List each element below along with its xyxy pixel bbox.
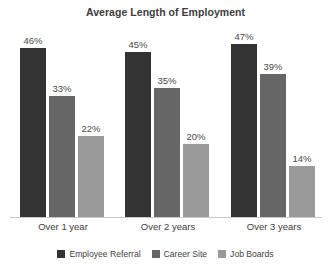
legend-swatch-icon (57, 250, 65, 258)
legend-item[interactable]: Employee Referral (57, 249, 140, 259)
bar-rect (78, 136, 104, 217)
bar-group-over-3-years: 47%39%14% (231, 26, 317, 217)
bar-value-label: 39% (252, 61, 294, 72)
bar-value-label: 46% (12, 35, 54, 46)
bar-value-label: 35% (146, 75, 188, 86)
bar-value-label: 14% (281, 153, 323, 164)
bar-rect (49, 96, 75, 217)
bar-value-label: 45% (117, 39, 159, 50)
legend-label: Career Site (164, 249, 207, 259)
bar-chart: Average Length of Employment 46%33%22% 4… (0, 0, 331, 276)
bar-rect (289, 166, 315, 217)
legend-item[interactable]: Job Boards (218, 249, 273, 259)
legend-label: Job Boards (230, 249, 273, 259)
bar-value-label: 20% (175, 131, 217, 142)
bar-rect (20, 48, 46, 217)
bar-group-over-2-years: 45%35%20% (125, 26, 211, 217)
bar-group-over-1-year: 46%33%22% (20, 26, 106, 217)
bar-rect (183, 144, 209, 218)
category-label: Over 1 year (8, 221, 118, 232)
bar-rect (154, 88, 180, 217)
legend-item[interactable]: Career Site (152, 249, 207, 259)
legend-swatch-icon (218, 250, 226, 258)
legend-label: Employee Referral (69, 249, 140, 259)
category-labels: Over 1 year Over 2 years Over 3 years (0, 221, 331, 237)
bar-value-label: 47% (223, 31, 265, 42)
category-axis-line (10, 217, 322, 218)
category-label: Over 3 years (219, 221, 329, 232)
chart-legend: Employee ReferralCareer SiteJob Boards (0, 249, 331, 259)
legend-swatch-icon (152, 250, 160, 258)
plot-area: 46%33%22% 45%35%20% 47%39%14% (0, 26, 331, 218)
bar-value-label: 22% (70, 123, 112, 134)
chart-title: Average Length of Employment (0, 6, 331, 18)
bar-rect (260, 74, 286, 217)
bar-value-label: 33% (41, 83, 83, 94)
category-label: Over 2 years (113, 221, 223, 232)
